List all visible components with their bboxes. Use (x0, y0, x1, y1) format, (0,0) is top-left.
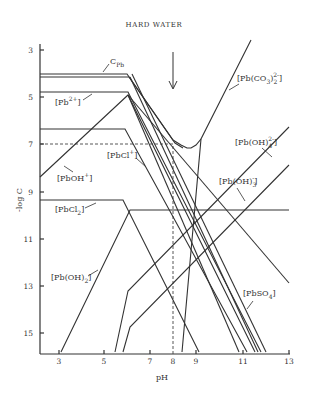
label-cpb: CPb (103, 57, 124, 72)
y-tick-5: 5 (28, 93, 33, 102)
label-pb2: [Pb2+] (55, 94, 92, 107)
label-pboh4: [Pb(OH)42-] (235, 135, 277, 157)
x-tick-13: 13 (284, 357, 294, 366)
label-pboh3: [Pb(OH)3-] (219, 174, 257, 201)
curve-pbso4-c (132, 74, 266, 352)
svg-text:[PbCl+]: [PbCl+] (107, 148, 137, 160)
svg-text:[PbSO4]: [PbSO4] (243, 289, 276, 300)
x-ticks: 3 5 7 8 9 11 13 (57, 350, 294, 366)
y-ticks: 3 5 7 9 11 13 15 (23, 46, 44, 338)
curve-pboh4 (115, 127, 289, 352)
down-arrow-icon (169, 52, 177, 89)
svg-text:[Pb(OH)42-]: [Pb(OH)42-] (235, 135, 277, 149)
x-tick-7: 7 (148, 357, 153, 366)
y-axis-label: -log C (15, 188, 24, 212)
svg-text:[Pb(OH)2]: [Pb(OH)2] (51, 273, 91, 284)
curve-pbco3 (182, 40, 251, 352)
y-tick-7: 7 (28, 140, 33, 149)
curves (40, 40, 289, 352)
y-tick-13: 13 (23, 282, 33, 291)
label-pbso4: [PbSO4] (243, 289, 276, 309)
label-pboh2: [Pb(OH)2] (51, 270, 98, 284)
label-pbcl2: [PbCl2] (55, 203, 96, 216)
svg-text:[PbOH+]: [PbOH+] (57, 171, 92, 183)
y-tick-9: 9 (28, 188, 33, 197)
svg-text:[PbCl2]: [PbCl2] (55, 205, 84, 216)
x-tick-5: 5 (102, 357, 107, 366)
curve-pb2 (40, 92, 261, 352)
x-tick-8: 8 (171, 357, 176, 366)
svg-text:[Pb(CO3)22-]: [Pb(CO3)22-] (237, 71, 282, 85)
svg-text:[Pb2+]: [Pb2+] (55, 95, 81, 107)
curve-pboh3 (123, 165, 289, 352)
chart: HARD WATER 3 5 7 9 11 13 15 (0, 0, 309, 393)
curve-cpb (40, 74, 201, 148)
label-pbco3: [Pb(CO3)22-] (229, 71, 282, 90)
x-axis-label: pH (156, 373, 168, 382)
label-pboh: [PbOH+] (57, 166, 92, 183)
curve-pbso4-b (130, 77, 258, 352)
x-tick-9: 9 (194, 357, 199, 366)
svg-text:CPb: CPb (110, 57, 124, 68)
y-tick-11: 11 (23, 235, 33, 244)
x-tick-3: 3 (57, 357, 62, 366)
x-tick-11: 11 (238, 357, 248, 366)
curve-cpb-lower (40, 77, 183, 148)
y-tick-3: 3 (28, 46, 33, 55)
curve-pbso4-a (128, 95, 239, 352)
chart-title: HARD WATER (126, 21, 183, 29)
svg-text:[Pb(OH)3-]: [Pb(OH)3-] (219, 174, 257, 188)
y-tick-15: 15 (23, 329, 33, 338)
